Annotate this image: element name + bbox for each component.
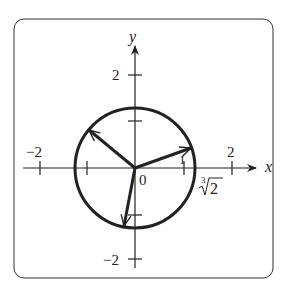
root-vector-2 [89, 130, 135, 168]
root-vector-3 [124, 168, 135, 226]
complex-roots-diagram: −2 1 2 2 −2 0 x y 3 2 [0, 0, 287, 289]
y-axis-label: y [127, 28, 137, 46]
y-tick-label-neg2: −2 [103, 252, 119, 268]
radius-label: 3 2 [199, 175, 223, 197]
x-tick-label-neg2: −2 [26, 144, 42, 160]
x-tick-label-1: 1 [179, 152, 186, 167]
svg-text:3: 3 [201, 175, 206, 185]
x-tick-label-2: 2 [227, 144, 235, 160]
x-axis-label: x [264, 158, 272, 175]
origin-label: 0 [139, 172, 147, 188]
y-tick-label-2: 2 [112, 67, 120, 83]
svg-text:2: 2 [210, 180, 218, 197]
